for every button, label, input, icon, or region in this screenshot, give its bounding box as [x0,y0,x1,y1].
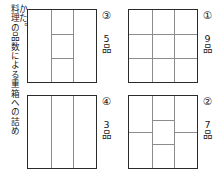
divider-horizontal [129,132,152,133]
jubako-box-1 [128,9,198,83]
divider-horizontal [152,144,175,145]
jubako-figure-4: ④ 3品 [27,95,119,169]
divider-horizontal [129,34,197,35]
divider-vertical [73,10,74,82]
divider-vertical [73,96,74,168]
label-column-3: ③ 5品 [99,9,119,83]
jubako-box-4 [27,95,97,169]
jubako-figure-1: ① 9品 [128,9,220,83]
caption-line-tail: かた。 [17,4,26,32]
label-column-1: ① 9品 [200,9,220,83]
label-column-2: ② 7品 [200,95,220,169]
divider-horizontal [51,34,74,35]
divider-vertical [51,96,52,168]
jubako-diagram-grid: ③ 5品 ① 9品 ④ 3品 [26,0,221,186]
figure-page: 料理の品数による重箱への詰め かた。 ③ 5品 [0,0,221,186]
divider-vertical [174,10,175,82]
divider-horizontal [129,58,197,59]
figure-number-2: ② [203,96,212,107]
label-column-4: ④ 3品 [99,95,119,169]
divider-horizontal [51,58,74,59]
figure-number-4: ④ [102,96,111,107]
divider-vertical [152,96,153,168]
figure-count-4: 3品 [101,119,111,140]
figure-count-2: 7品 [202,119,212,140]
divider-horizontal [174,132,197,133]
jubako-figure-3: ③ 5品 [27,9,119,83]
figure-count-3: 5品 [101,33,111,54]
divider-horizontal [152,120,175,121]
figure-number-3: ③ [102,10,111,21]
figure-count-1: 9品 [202,33,212,54]
jubako-box-2 [128,95,198,169]
jubako-box-3 [27,9,97,83]
figure-number-1: ① [203,10,212,21]
caption-block: 料理の品数による重箱への詰め かた。 [0,0,26,186]
divider-vertical [152,10,153,82]
jubako-figure-2: ② 7品 [128,95,220,169]
divider-vertical [51,10,52,82]
